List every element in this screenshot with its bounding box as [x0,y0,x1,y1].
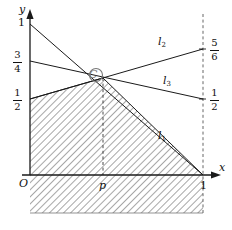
line-label-l1-base: l [158,129,162,142]
y-tick-one-half-denominator: 2 [13,102,21,113]
line-label-l3-sub: 3 [167,80,171,88]
figure-root: y x O 1 3 4 1 2 5 6 1 2 p 1 C l2 l3 l1 [0,0,232,230]
right-tick-five-sixths-numerator: 5 [210,38,218,49]
y-axis-label: y [19,4,25,15]
right-axis-ticks [199,49,206,99]
y-tick-1: 1 [18,17,25,28]
right-tick-one-half: 1 2 [210,88,219,112]
y-tick-three-quarters-denominator: 4 [13,64,21,75]
line-label-l2-sub: 2 [162,41,166,49]
y-tick-one-half-numerator: 1 [13,88,21,99]
y-tick-three-quarters-numerator: 3 [13,50,21,61]
right-tick-five-sixths: 5 6 [210,38,219,62]
plot-canvas [0,0,232,230]
line-label-l2: l2 [158,36,166,47]
line-label-l1-sub: 1 [162,135,166,143]
line-label-l1: l1 [158,130,166,141]
point-c-label: C [89,69,97,80]
y-tick-three-quarters: 3 4 [13,50,22,74]
right-tick-one-half-denominator: 2 [210,102,218,113]
y-tick-one-half: 1 2 [13,88,22,112]
x-axis-label: x [219,162,225,173]
x-tick-one: 1 [200,180,207,191]
right-tick-one-half-numerator: 1 [210,88,218,99]
right-tick-five-sixths-denominator: 6 [210,52,218,63]
origin-label: O [19,178,28,189]
line-label-l3: l3 [163,75,171,86]
line-label-l2-base: l [158,35,162,48]
shaded-region [30,78,203,213]
line-label-l3-base: l [163,74,167,87]
x-tick-p: p [99,180,106,191]
